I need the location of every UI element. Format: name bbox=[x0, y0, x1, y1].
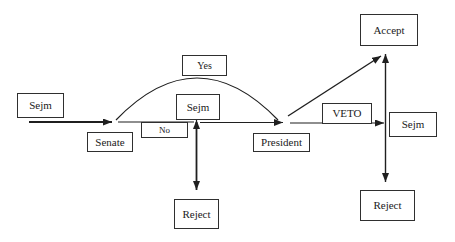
node-senate: Senate bbox=[87, 132, 133, 152]
node-accept: Accept bbox=[360, 14, 418, 46]
node-reject-right: Reject bbox=[360, 190, 415, 221]
node-sejm-left: Sejm bbox=[17, 93, 64, 118]
node-sejm-left-label: Sejm bbox=[29, 100, 52, 111]
node-president: President bbox=[253, 133, 310, 152]
node-reject-middle-label: Reject bbox=[182, 209, 210, 220]
node-veto-label: VETO bbox=[332, 108, 361, 119]
node-yes-label: Yes bbox=[197, 61, 212, 71]
node-no: No bbox=[141, 122, 188, 138]
flowchart-canvas: Sejm Yes Sejm Senate No President VETO S… bbox=[0, 0, 455, 242]
node-senate-label: Senate bbox=[95, 137, 124, 148]
node-sejm-right: Sejm bbox=[389, 112, 437, 137]
node-reject-right-label: Reject bbox=[373, 200, 401, 211]
node-sejm-middle: Sejm bbox=[176, 94, 220, 120]
node-accept-label: Accept bbox=[373, 25, 404, 36]
node-reject-middle: Reject bbox=[174, 199, 219, 229]
node-veto: VETO bbox=[322, 103, 372, 124]
node-yes: Yes bbox=[182, 55, 227, 76]
node-sejm-right-label: Sejm bbox=[402, 119, 425, 130]
node-no-label: No bbox=[159, 126, 170, 135]
node-president-label: President bbox=[261, 137, 302, 148]
node-sejm-middle-label: Sejm bbox=[187, 102, 210, 113]
